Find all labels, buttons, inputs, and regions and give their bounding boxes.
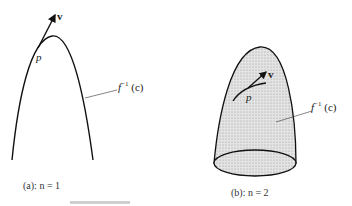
level-curve (12, 36, 93, 160)
vector-label-b: v (268, 68, 274, 80)
level-surface (214, 47, 296, 163)
label-leader-line (85, 90, 117, 98)
point-label-a: p (36, 51, 42, 63)
panel-a-diagram (12, 15, 117, 160)
preimage-label-a: f−1 (c) (118, 80, 143, 93)
surface-base-ellipse (214, 150, 296, 176)
preimage-label-b: f−1 (c) (311, 100, 336, 113)
caption-b: (b): n = 2 (231, 187, 269, 198)
cutoff-figure-caption (70, 201, 130, 204)
caption-a: (a): n = 1 (23, 180, 60, 191)
point-label-b: p (246, 91, 252, 103)
tangent-vector-arrow (38, 15, 55, 48)
vector-label-a: v (57, 10, 63, 22)
figure-canvas (0, 0, 352, 206)
panel-b-diagram (214, 47, 312, 176)
